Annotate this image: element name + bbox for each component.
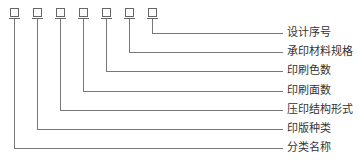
code-box-7 xyxy=(148,8,157,17)
connector-horizontal xyxy=(106,71,283,72)
label-category-name: 分类名称 xyxy=(287,142,331,154)
connector-horizontal xyxy=(83,91,283,92)
connector-vertical xyxy=(60,19,61,111)
connector-vertical xyxy=(83,19,84,92)
label-print-colors: 印刷色数 xyxy=(287,65,331,77)
connector-horizontal xyxy=(129,52,283,53)
connector-vertical xyxy=(106,19,107,72)
label-plate-type: 印版种类 xyxy=(287,123,331,135)
label-substrate-spec: 承印材料规格 xyxy=(287,46,353,58)
connector-horizontal xyxy=(37,129,283,130)
connector-vertical xyxy=(152,19,153,34)
label-design-serial: 设计序号 xyxy=(287,27,331,39)
code-box-3 xyxy=(56,8,65,17)
code-box-2 xyxy=(33,8,42,17)
label-print-sides: 印刷面数 xyxy=(287,85,331,97)
connector-horizontal xyxy=(60,110,283,111)
code-box-4 xyxy=(79,8,88,17)
connector-horizontal xyxy=(14,148,283,149)
connector-vertical xyxy=(129,19,130,53)
code-box-5 xyxy=(102,8,111,17)
label-impression-structure: 压印结构形式 xyxy=(287,104,353,116)
connector-horizontal xyxy=(152,33,283,34)
code-box-6 xyxy=(125,8,134,17)
connector-vertical xyxy=(37,19,38,130)
connector-vertical xyxy=(14,19,15,149)
code-box-1 xyxy=(10,8,19,17)
